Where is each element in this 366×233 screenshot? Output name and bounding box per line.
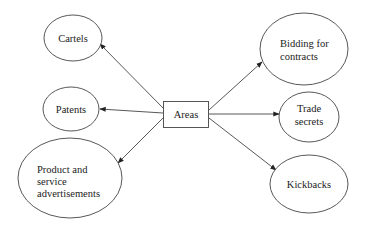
node-product-advertisements: Product and service advertisements bbox=[18, 138, 122, 218]
node-bidding-line-2: contracts bbox=[280, 51, 318, 62]
edge-areas-cartels bbox=[100, 44, 163, 108]
center-node-areas: Areas bbox=[164, 102, 209, 128]
edge-areas-product bbox=[118, 118, 163, 163]
diagram-canvas: Areas Cartels Patents Product and servic… bbox=[0, 0, 366, 233]
node-trade-line-2: secrets bbox=[295, 116, 324, 127]
node-product-line-3: advertisements bbox=[37, 188, 100, 199]
node-bidding-line-1: Bidding for bbox=[280, 38, 329, 49]
node-kickbacks-label: Kickbacks bbox=[287, 179, 331, 190]
node-cartels: Cartels bbox=[44, 15, 102, 61]
areas-diagram: Areas Cartels Patents Product and servic… bbox=[0, 0, 366, 233]
edge-areas-kickbacks bbox=[209, 118, 276, 170]
node-trade-secrets: Trade secrets bbox=[279, 92, 339, 142]
node-trade-line-1: Trade bbox=[297, 103, 321, 114]
node-product-line-1: Product and bbox=[37, 164, 88, 175]
node-kickbacks: Kickbacks bbox=[270, 155, 348, 213]
node-bidding-for-contracts: Bidding for contracts bbox=[260, 13, 348, 85]
node-cartels-label: Cartels bbox=[58, 33, 88, 44]
center-node-label: Areas bbox=[174, 109, 199, 120]
edge-areas-bidding bbox=[209, 62, 262, 110]
edge-areas-patents bbox=[100, 109, 163, 113]
node-product-line-2: service bbox=[37, 176, 67, 187]
node-patents: Patents bbox=[43, 87, 99, 131]
node-patents-label: Patents bbox=[56, 104, 86, 115]
